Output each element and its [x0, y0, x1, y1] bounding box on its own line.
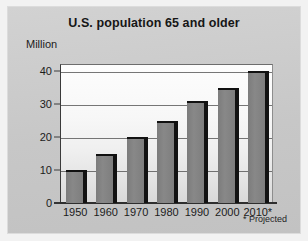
y-tick-label-40: 40 [22, 65, 52, 77]
y-tick-label-10: 10 [22, 164, 52, 176]
bar-2000[interactable] [218, 88, 239, 204]
y-tick-label-30: 30 [22, 98, 52, 110]
x-axis-labels: 1950196019701980199020002010* [60, 206, 273, 222]
bar-series [60, 64, 273, 203]
y-tick-label-20: 20 [22, 131, 52, 143]
footnote-projected: * Projected [243, 214, 287, 224]
bar-1950[interactable] [66, 170, 87, 203]
bar-1990[interactable] [187, 101, 208, 203]
chart-title: U.S. population 65 and older [8, 16, 300, 30]
bar-1960[interactable] [96, 154, 117, 204]
y-tick-label-0: 0 [22, 197, 52, 209]
bar-1970[interactable] [127, 137, 148, 203]
bar-1980[interactable] [157, 121, 178, 204]
bar-2010[interactable] [248, 71, 269, 203]
y-axis-unit-label: Million [26, 38, 57, 50]
chart-panel: U.S. population 65 and older Million 40 … [7, 6, 301, 234]
chart-figure: U.S. population 65 and older Million 40 … [0, 0, 308, 241]
